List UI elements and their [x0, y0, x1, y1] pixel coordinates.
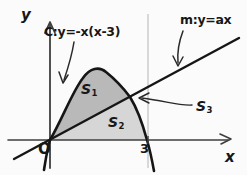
- origin-label: O: [38, 142, 51, 157]
- x-axis-label: x: [225, 150, 235, 165]
- region-label-s2-text: S: [108, 114, 118, 130]
- region-label-s3: S3: [196, 99, 213, 115]
- region-label-s2-subscript: 2: [119, 121, 125, 131]
- math-diagram-figure: y x O 3 C:y=-x(x-3) m:y=ax S1 S2 S3: [0, 0, 247, 175]
- x-tick-label-3: 3: [140, 142, 149, 155]
- line-equation-label: m:y=ax: [180, 14, 231, 27]
- region-label-s3-subscript: 3: [207, 105, 213, 115]
- region-label-s1: S1: [81, 82, 98, 98]
- parabola-equation-label: C:y=-x(x-3): [44, 26, 120, 39]
- region-label-s2: S2: [108, 115, 125, 131]
- x-axis-arrowhead: [220, 134, 231, 144]
- region-label-s3-text: S: [196, 98, 206, 114]
- region-label-s1-subscript: 1: [92, 88, 98, 98]
- region-label-s1-text: S: [81, 81, 91, 97]
- y-axis-label: y: [21, 8, 31, 23]
- s3-label-leader-arrow: [142, 98, 192, 105]
- curve-label-leader-arrow: [64, 42, 74, 80]
